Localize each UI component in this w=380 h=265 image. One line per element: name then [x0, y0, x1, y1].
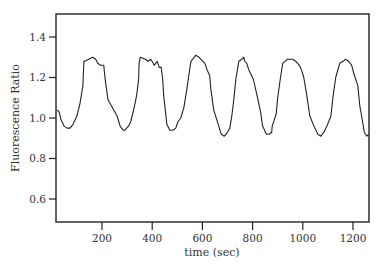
- y-tick-label: 1.4: [29, 31, 46, 43]
- plot-area-border: [56, 14, 369, 222]
- x-axis: 20040060080010001200: [92, 222, 366, 244]
- x-tick-label: 400: [142, 232, 162, 244]
- y-tick-label: 0.8: [29, 152, 46, 164]
- x-axis-title: time (sec): [184, 246, 239, 259]
- y-tick-label: 1.2: [29, 71, 46, 83]
- y-tick-label: 1.0: [29, 112, 46, 124]
- line-chart: 0.60.81.01.21.4 20040060080010001200 tim…: [0, 0, 380, 265]
- x-tick-label: 800: [243, 232, 263, 244]
- x-tick-label: 1000: [289, 232, 316, 244]
- x-tick-label: 200: [92, 232, 112, 244]
- x-tick-label: 600: [192, 232, 212, 244]
- y-tick-label: 0.6: [29, 193, 46, 205]
- y-axis: 0.60.81.01.21.4: [29, 31, 56, 205]
- fluorescence-ratio-line: [57, 55, 369, 136]
- x-tick-label: 1200: [340, 232, 367, 244]
- plot-frame: [56, 14, 369, 222]
- y-axis-title: Fluorescence Ratio: [9, 64, 22, 172]
